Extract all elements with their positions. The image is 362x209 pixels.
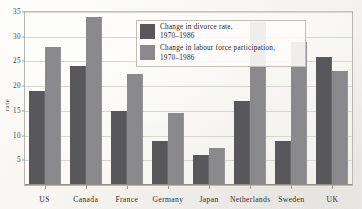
legend-label-labour-force: Change in labour force participation, 19… (160, 44, 275, 62)
x-tick-uk: UK (312, 186, 353, 208)
y-axis-title: rate (3, 98, 11, 111)
x-tick-mark-sweden (291, 186, 292, 189)
plot-area: 5101520253035 Change in divorce rate, 19… (24, 11, 353, 186)
bar-canada-divorce-rate (70, 66, 86, 185)
legend-label-divorce-rate-line2: 1970–1986 (160, 32, 233, 41)
bar-germany-labour-force (168, 113, 184, 185)
x-axis-labels: USCanadaFranceGermanyJapanNetherlandsSwe… (24, 186, 353, 208)
legend-label-divorce-rate: Change in divorce rate, 1970–1986 (160, 23, 233, 41)
y-tick-label-20: 20 (13, 82, 21, 90)
y-tick-label-25: 25 (13, 57, 21, 65)
x-tick-mark-france (127, 186, 128, 189)
x-tick-mark-uk (332, 186, 333, 189)
legend-label-divorce-rate-line1: Change in divorce rate, (160, 23, 233, 31)
x-axis-line (25, 184, 352, 185)
x-tick-mark-us (45, 186, 46, 189)
x-tick-germany: Germany (147, 186, 188, 208)
x-tick-mark-japan (209, 186, 210, 189)
y-tick-label-15: 15 (13, 107, 21, 115)
x-tick-france: France (106, 186, 147, 208)
bar-canada-labour-force (86, 17, 102, 185)
legend-swatch-divorce-rate (140, 24, 155, 39)
x-tick-netherlands: Netherlands (230, 186, 271, 208)
bar-netherlands-divorce-rate (234, 101, 250, 185)
bar-uk-labour-force (332, 71, 348, 185)
y-tick-label-35: 35 (13, 8, 21, 16)
bar-germany-divorce-rate (152, 141, 168, 185)
grouped-bar-chart: rate 5101520253035 Change in divorce rat… (0, 0, 362, 209)
bar-us-labour-force (45, 47, 61, 185)
x-tick-canada: Canada (65, 186, 106, 208)
x-tick-sweden: Sweden (271, 186, 312, 208)
x-tick-us: US (24, 186, 65, 208)
legend-label-labour-force-line1: Change in labour force participation, (160, 44, 275, 52)
legend-swatch-labour-force (140, 45, 155, 60)
bar-france-divorce-rate (111, 111, 127, 185)
bar-sweden-divorce-rate (275, 141, 291, 185)
legend-label-labour-force-line2: 1970–1986 (160, 54, 275, 63)
y-tick-label-10: 10 (13, 132, 21, 140)
x-tick-mark-netherlands (250, 186, 251, 189)
chart-legend: Change in divorce rate, 1970–1986 Change… (136, 20, 306, 67)
legend-item-divorce-rate: Change in divorce rate, 1970–1986 (140, 23, 302, 41)
bar-group-uk (311, 12, 352, 185)
legend-item-labour-force: Change in labour force participation, 19… (140, 44, 302, 62)
bar-group-canada (66, 12, 107, 185)
bar-group-us (25, 12, 66, 185)
x-tick-mark-canada (86, 186, 87, 189)
bar-uk-divorce-rate (316, 57, 332, 186)
bar-japan-labour-force (209, 148, 225, 185)
y-tick-label-30: 30 (13, 33, 21, 41)
x-tick-mark-germany (168, 186, 169, 189)
bar-japan-divorce-rate (193, 155, 209, 185)
x-tick-japan: Japan (189, 186, 230, 208)
bar-us-divorce-rate (29, 91, 45, 185)
y-tick-label-5: 5 (17, 156, 21, 164)
bar-france-labour-force (127, 74, 143, 185)
